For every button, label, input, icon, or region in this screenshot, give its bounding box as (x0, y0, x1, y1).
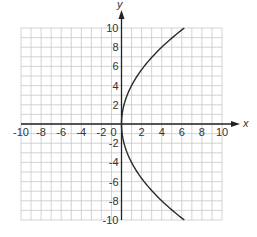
x-axis-arrow-icon (231, 121, 240, 127)
y-tick-label: 10 (106, 22, 118, 34)
y-tick-label: -8 (109, 195, 119, 207)
y-tick-label: 6 (112, 60, 118, 72)
y-tick-label: 8 (112, 41, 118, 53)
x-axis-label: x (242, 117, 249, 129)
x-tick-label: -4 (76, 126, 86, 138)
x-tick-label: 10 (216, 126, 228, 138)
y-tick-label: -2 (109, 137, 119, 149)
chart-canvas: -10-8-6-4-20246810-10-8-6-4-2246810 x y (0, 0, 257, 237)
x-tick-label: 6 (179, 126, 185, 138)
y-tick-label: -4 (109, 156, 119, 168)
y-tick-label: 4 (112, 80, 118, 92)
x-tick-label: -6 (56, 126, 66, 138)
x-tick-label: -2 (97, 126, 107, 138)
y-axis-arrow-icon (119, 10, 125, 19)
y-tick-label: 2 (112, 99, 118, 111)
x-tick-label: 4 (159, 126, 165, 138)
axes (21, 10, 240, 220)
x-tick-label: 2 (139, 126, 145, 138)
y-tick-label: -6 (109, 176, 119, 188)
x-tick-label: -10 (13, 126, 29, 138)
x-tick-label: 0 (110, 126, 116, 138)
x-tick-label: 8 (199, 126, 205, 138)
y-tick-label: -10 (103, 214, 119, 226)
x-tick-label: -8 (36, 126, 46, 138)
y-axis-label: y (116, 0, 124, 10)
